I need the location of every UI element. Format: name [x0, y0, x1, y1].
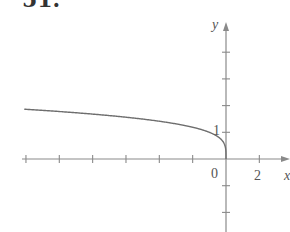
x-axis — [22, 155, 290, 163]
origin-label: 0 — [211, 166, 218, 181]
x-axis-arrow-icon — [281, 156, 290, 162]
x-tick-label-2: 2 — [254, 168, 261, 183]
x-axis-label: x — [283, 168, 290, 183]
y-axis — [222, 22, 230, 232]
y-tick-label-1: 1 — [213, 123, 220, 138]
function-graph: y x 0 2 1 — [0, 0, 290, 232]
y-axis-label: y — [210, 17, 219, 32]
y-axis-arrow-icon — [223, 22, 229, 31]
function-curve — [24, 109, 226, 159]
